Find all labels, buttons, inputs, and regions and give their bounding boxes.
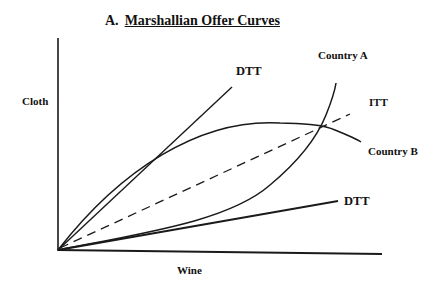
itt-label: ITT bbox=[369, 96, 388, 108]
country-b-curve bbox=[58, 123, 361, 250]
y-axis-label: Cloth bbox=[22, 95, 48, 107]
country-a-label: Country A bbox=[318, 49, 368, 61]
x-axis bbox=[58, 250, 382, 254]
x-axis-label: Wine bbox=[177, 264, 202, 276]
dtt-lower-label: DTT bbox=[344, 194, 370, 209]
country-b-label: Country B bbox=[368, 145, 418, 157]
dtt-upper-line bbox=[58, 87, 232, 250]
offer-curve-diagram bbox=[0, 0, 443, 288]
dtt-upper-label: DTT bbox=[236, 64, 262, 79]
